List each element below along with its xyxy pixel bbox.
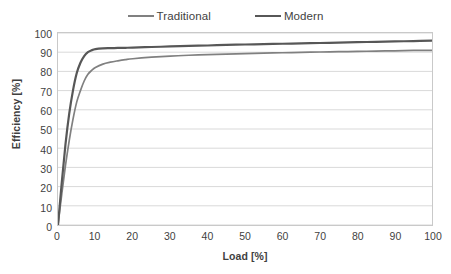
x-tick-label: 90: [375, 231, 415, 242]
x-axis-title: Load [%]: [57, 250, 433, 262]
series-line-traditional: [58, 50, 432, 225]
x-tick-label: 60: [263, 231, 303, 242]
caption-strip: [0, 266, 451, 274]
x-tick-label: 80: [338, 231, 378, 242]
plot-svg: [58, 33, 432, 225]
x-tick-label: 100: [413, 231, 451, 242]
x-tick-label: 70: [300, 231, 340, 242]
x-tick-label: 40: [187, 231, 227, 242]
plot-area: [57, 32, 433, 226]
x-tick-label: 50: [225, 231, 265, 242]
x-tick-label: 0: [37, 231, 77, 242]
x-tick-label: 20: [112, 231, 152, 242]
x-tick-label: 10: [75, 231, 115, 242]
series-line-modern: [58, 41, 432, 225]
efficiency-vs-load-chart: Traditional Modern Efficiency [%] 100 90…: [0, 0, 451, 274]
x-tick-label: 30: [150, 231, 190, 242]
